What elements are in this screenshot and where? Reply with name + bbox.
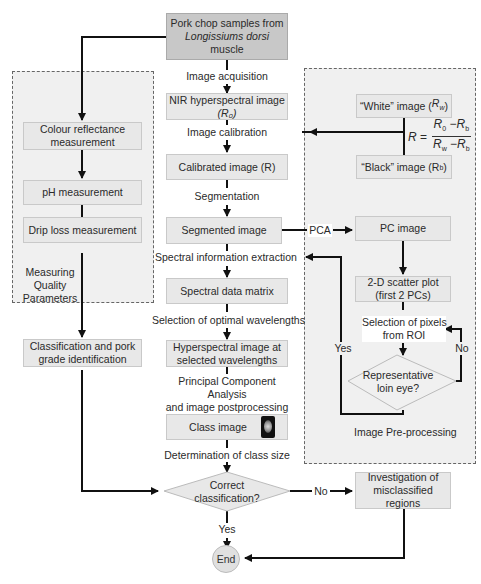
colour-line1: Colour reflectance xyxy=(40,123,125,136)
end-node: End xyxy=(212,545,240,573)
measuring-quality-parameters-label: Measuring Quality Parameters xyxy=(22,266,78,305)
end-text: End xyxy=(217,553,236,565)
hyperspectral-line1: Hyperspectral image at xyxy=(173,341,281,354)
nir-line2: (R₀) xyxy=(217,107,236,120)
ph-text: pH measurement xyxy=(42,186,123,199)
drip-loss-text: Drip loss measurement xyxy=(29,224,137,237)
calibration-formula: R = R0 −Rb Rw −Rb xyxy=(408,117,472,157)
determination-class-size-label: Determination of class size xyxy=(162,449,292,462)
segmented-image-box: Segmented image xyxy=(166,217,282,244)
black-image-box: “Black” image (Rb) xyxy=(356,155,452,179)
drip-loss-box: Drip loss measurement xyxy=(23,217,142,243)
nir-hyperspectral-image-box: NIR hyperspectral image (R₀) xyxy=(166,93,288,120)
spectral-information-extraction-label: Spectral information extraction xyxy=(155,251,295,264)
class-image-thumbnail-icon xyxy=(261,416,275,438)
investigation-line1: Investigation of xyxy=(368,471,439,484)
pork-chop-samples-box: Pork chop samples from Longissiums dorsi… xyxy=(166,13,288,60)
calibrated-image-text: Calibrated image (R) xyxy=(179,161,276,174)
segmented-image-text: Segmented image xyxy=(181,224,266,237)
image-preprocessing-label: Image Pre-processing xyxy=(354,426,454,439)
ph-measurement-box: pH measurement xyxy=(23,180,142,205)
image-acquisition-label: Image acquisition xyxy=(180,70,274,83)
title-line3: muscle xyxy=(210,43,243,56)
title-line2: Longissiums dorsi xyxy=(185,30,269,43)
scatter-line2: (first 2 PCs) xyxy=(375,289,430,302)
scatter-line1: 2-D scatter plot xyxy=(367,276,438,289)
segmentation-label: Segmentation xyxy=(193,190,261,203)
investigation-line3: regions xyxy=(386,497,420,510)
title-line1: Pork chop samples from xyxy=(170,17,283,30)
pc-image-box: PC image xyxy=(355,216,451,241)
investigation-line2: misclassified xyxy=(373,484,433,497)
image-calibration-label: Image calibration xyxy=(184,126,270,139)
scatter-plot-box: 2-D scatter plot (first 2 PCs) xyxy=(355,276,451,302)
hyperspectral-line2: selected wavelengths xyxy=(177,354,277,367)
nir-line1: NIR hyperspectral image xyxy=(169,94,285,107)
spectral-data-matrix-text: Spectral data matrix xyxy=(180,285,273,298)
classification-line1: Classification and pork xyxy=(30,340,136,353)
pc-image-text: PC image xyxy=(380,222,426,235)
selection-optimal-wavelengths-label: Selection of optimal wavelengths xyxy=(152,314,302,327)
classification-grade-box: Classification and pork grade identifica… xyxy=(23,339,142,367)
white-image-box: “White” image (Rw) xyxy=(356,94,452,118)
colour-reflectance-box: Colour reflectance measurement xyxy=(23,122,142,150)
selection-pixels-label: Selection of pixels from ROI xyxy=(362,316,446,342)
pca-label: PCA xyxy=(308,224,332,237)
class-image-box: Class image xyxy=(166,414,288,440)
pca-postprocessing-label: Principal Component Analysis and image p… xyxy=(158,375,296,414)
representative-loin-eye-text: Representative loin eye? xyxy=(360,369,436,395)
no-label-center: No xyxy=(312,485,330,498)
class-image-text: Class image xyxy=(189,421,247,434)
correct-classification-text: Correct classification? xyxy=(182,479,272,505)
yes-label-center: Yes xyxy=(216,523,238,536)
classification-line2: grade identification xyxy=(38,353,126,366)
calibrated-image-box: Calibrated image (R) xyxy=(166,154,288,180)
hyperspectral-selected-wavelengths-box: Hyperspectral image at selected waveleng… xyxy=(166,340,288,367)
colour-line2: measurement xyxy=(50,136,114,149)
no-label-loop: No xyxy=(455,342,469,355)
spectral-data-matrix-box: Spectral data matrix xyxy=(166,278,288,304)
pca-line1: Principal Component Analysis xyxy=(178,375,275,400)
yes-label-loop: Yes xyxy=(333,342,353,355)
investigation-box: Investigation of misclassified regions xyxy=(355,472,451,509)
pca-line2: and image postprocessing xyxy=(166,401,289,413)
